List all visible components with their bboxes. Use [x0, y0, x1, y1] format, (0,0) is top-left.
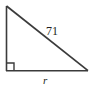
right-triangle-figure: 71 r [0, 0, 94, 90]
hypotenuse-label: 71 [46, 25, 58, 37]
base-length-label: r [43, 75, 47, 86]
right-angle-marker-icon [7, 63, 15, 71]
hypotenuse-line [7, 6, 89, 71]
